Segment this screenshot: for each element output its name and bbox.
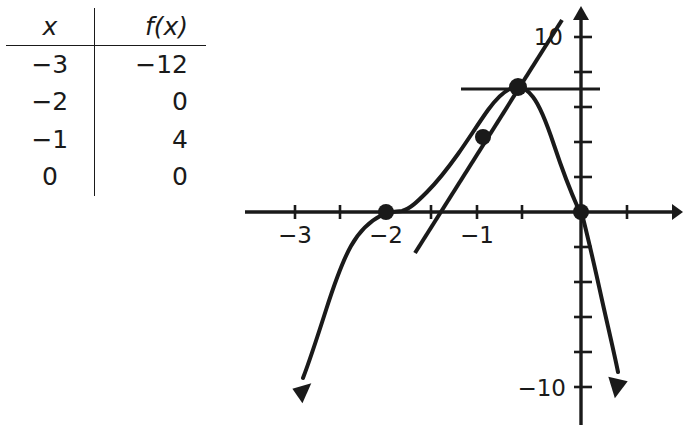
x-tick-label-neg3: −3 xyxy=(278,222,312,248)
cell-x: −3 xyxy=(6,45,94,83)
cell-fx: −12 xyxy=(94,45,206,83)
point-marker-origin xyxy=(573,204,589,220)
cell-x: −1 xyxy=(6,121,94,159)
cell-fx: 0 xyxy=(94,83,206,121)
point-marker-minus2-0 xyxy=(378,204,394,220)
point-marker-minus1-4 xyxy=(475,129,491,145)
figure-root: x f(x) −3 −12 −2 0 −1 4 0 xyxy=(0,0,683,430)
table-row: −1 4 xyxy=(6,121,206,159)
curve-left-arrow-icon xyxy=(291,381,312,404)
cell-x: −2 xyxy=(6,83,94,121)
graph-panel: −3 −2 −1 10 −10 xyxy=(230,0,683,430)
point-marker-local-max xyxy=(509,78,527,96)
coordinate-plot: −3 −2 −1 10 −10 xyxy=(230,0,683,430)
y-axis-arrow-icon xyxy=(573,6,589,20)
function-value-table: x f(x) −3 −12 −2 0 −1 4 0 xyxy=(6,8,206,208)
y-tick-label-neg10: −10 xyxy=(517,375,566,401)
cell-fx: 0 xyxy=(94,158,206,196)
table-row: −2 0 xyxy=(6,83,206,121)
cell-x: 0 xyxy=(6,158,94,196)
table-header: x f(x) xyxy=(6,8,206,45)
table-row: −3 −12 xyxy=(6,45,206,83)
table-header-row: x f(x) xyxy=(6,8,206,45)
x-tick-label-neg1: −1 xyxy=(460,222,494,248)
column-header-fx: f(x) xyxy=(94,8,206,45)
table-row: 0 0 xyxy=(6,158,206,196)
cell-fx: 4 xyxy=(94,121,206,159)
table-body: −3 −12 −2 0 −1 4 0 0 xyxy=(6,45,206,196)
curve-right-arrow-icon xyxy=(608,375,628,398)
table: x f(x) −3 −12 −2 0 −1 4 0 xyxy=(6,8,206,196)
column-header-x: x xyxy=(6,8,94,45)
x-tick-label-neg2: −2 xyxy=(369,222,403,248)
x-axis-arrow-icon xyxy=(672,204,683,220)
